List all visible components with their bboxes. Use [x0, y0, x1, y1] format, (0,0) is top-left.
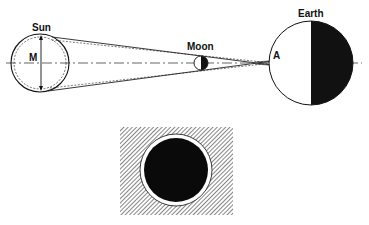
sun-inner-dashed-circle [14, 37, 66, 89]
moon-disc [144, 138, 208, 202]
sun-label: Sun [32, 22, 51, 33]
diameter-label: M [29, 52, 37, 63]
eclipse-inset [120, 127, 233, 215]
moon-label: Moon [187, 41, 214, 52]
earth: Earth A [269, 8, 353, 105]
eclipse-diagram: M Sun Moon Earth A [0, 0, 369, 225]
shadow-cone-lines [48, 37, 282, 91]
point-a-label: A [273, 50, 280, 61]
sun: M Sun [11, 22, 69, 92]
earth-label: Earth [298, 8, 324, 19]
